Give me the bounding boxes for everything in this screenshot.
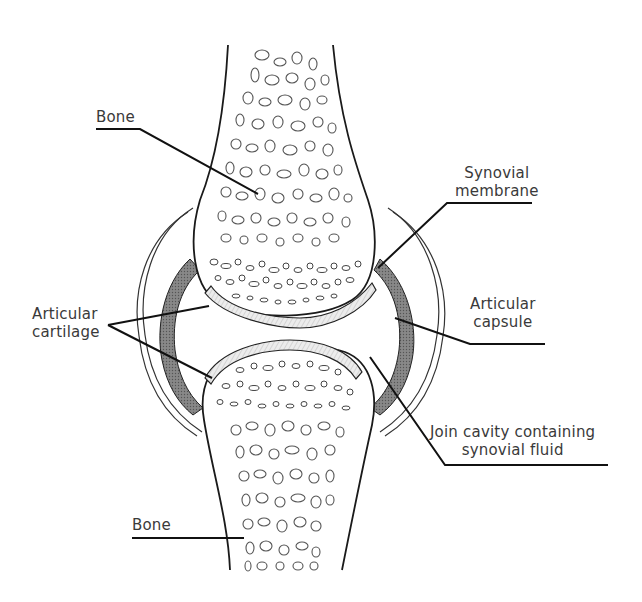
- label-articular-cartilage: Articular cartilage: [32, 305, 100, 341]
- label-joint-cavity: Join cavity containing synovial fluid: [430, 423, 595, 459]
- label-articular-capsule: Articular capsule: [470, 295, 536, 331]
- label-synovial-membrane-line2: membrane: [455, 182, 539, 200]
- label-synovial-membrane: Synovial membrane: [455, 164, 539, 200]
- label-articular-capsule-line2: capsule: [470, 313, 536, 331]
- leader-synovial-membrane: [378, 203, 532, 268]
- label-joint-cavity-line2: synovial fluid: [430, 441, 595, 459]
- label-articular-capsule-line1: Articular: [470, 295, 536, 313]
- label-bone-top: Bone: [96, 108, 135, 126]
- label-articular-cartilage-line1: Articular: [32, 305, 100, 323]
- lower-bone: [203, 340, 374, 570]
- upper-bone: [194, 45, 376, 328]
- label-joint-cavity-line1: Join cavity containing: [430, 423, 595, 441]
- label-bone-bottom: Bone: [132, 516, 171, 534]
- synovial-joint-diagram: [0, 0, 642, 602]
- label-synovial-membrane-line1: Synovial: [455, 164, 539, 182]
- label-bone-top-line1: Bone: [96, 108, 135, 126]
- label-articular-cartilage-line2: cartilage: [32, 323, 100, 341]
- label-bone-bottom-line1: Bone: [132, 516, 171, 534]
- leader-articular-cartilage-upper: [108, 306, 209, 325]
